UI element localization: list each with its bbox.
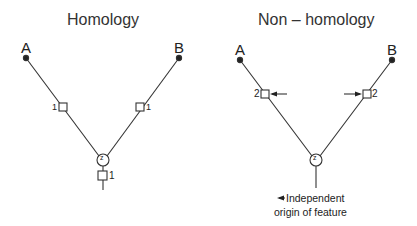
right-branch-label: 2 — [372, 88, 378, 99]
diagram-canvas — [0, 0, 417, 226]
taxon-a-label: A — [21, 39, 31, 56]
node-label: z — [100, 154, 104, 161]
non-homology-tree — [237, 57, 394, 200]
stem-label: 1 — [109, 170, 115, 181]
homology-title: Homology — [67, 11, 139, 29]
character-box-left — [59, 103, 67, 111]
taxon-b-dot — [389, 57, 394, 62]
arrow-left-head-icon — [270, 92, 277, 97]
right-branch-label: 1 — [146, 102, 151, 112]
taxon-b-dot — [176, 55, 181, 60]
character-box-right — [136, 103, 144, 111]
annotation-line1: Independent — [286, 191, 344, 205]
homology-tree — [23, 55, 181, 190]
annotation-arrow-head-icon — [277, 196, 284, 201]
arrow-right-head-icon — [355, 92, 362, 97]
branch-a — [240, 60, 312, 156]
non-homology-title: Non – homology — [258, 11, 375, 29]
taxon-a-dot — [237, 57, 242, 62]
left-branch-label: 2 — [254, 88, 260, 99]
character-box-right — [363, 90, 371, 98]
left-branch-label: 1 — [52, 102, 57, 112]
node-label: z — [313, 154, 317, 161]
character-box-stem — [98, 171, 107, 180]
character-box-left — [261, 90, 269, 98]
taxon-b-label: B — [174, 39, 184, 56]
taxon-a-label: A — [235, 41, 245, 58]
taxon-b-label: B — [387, 41, 397, 58]
taxon-a-dot — [23, 55, 28, 60]
annotation-line2: origin of feature — [274, 205, 347, 219]
branch-b — [320, 60, 392, 156]
